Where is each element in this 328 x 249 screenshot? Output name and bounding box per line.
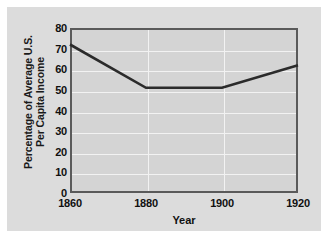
chart-figure: Percentage of Average U.S. Per Capita In…: [7, 7, 321, 231]
x-axis-tick-labels: 1860188019001920: [70, 197, 298, 213]
y-axis-tick-label: 60: [41, 63, 67, 75]
y-axis-tick-label: 20: [41, 146, 67, 158]
x-axis-title: Year: [70, 214, 298, 226]
plot-area: [70, 28, 298, 193]
y-axis-tick-labels: 01020304050607080: [37, 28, 67, 193]
x-axis-tick-label: 1880: [123, 197, 169, 209]
y-axis-tick-label: 50: [41, 84, 67, 96]
y-axis-tick-label: 80: [41, 22, 67, 34]
series-line: [70, 45, 298, 88]
y-axis-title-line1: Percentage of Average U.S.: [22, 35, 35, 169]
line-series: [70, 28, 298, 193]
y-axis-tick-label: 10: [41, 166, 67, 178]
y-axis-tick-label: 30: [41, 125, 67, 137]
y-axis-tick-label: 70: [41, 43, 67, 55]
y-axis-tick-label: 40: [41, 105, 67, 117]
x-axis-tick-label: 1860: [47, 197, 93, 209]
x-axis-tick-label: 1900: [199, 197, 245, 209]
x-axis-tick-label: 1920: [275, 197, 321, 209]
